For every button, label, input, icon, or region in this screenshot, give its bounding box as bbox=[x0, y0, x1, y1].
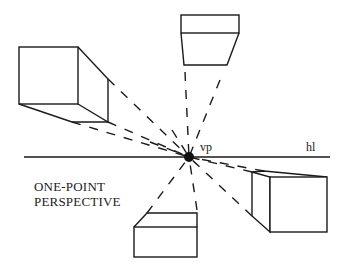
vanishing-point bbox=[184, 152, 194, 162]
cube-top-center bbox=[181, 15, 239, 65]
projection-lines-bottom-center bbox=[147, 157, 197, 213]
horizon-line-label: hl bbox=[306, 140, 315, 155]
projection-lines-bottom-right bbox=[189, 157, 264, 216]
diagram-title: ONE-POINT PERSPECTIVE bbox=[34, 179, 121, 209]
title-line-1: ONE-POINT bbox=[34, 179, 121, 194]
cube-bottom-center bbox=[134, 213, 197, 257]
diagram-canvas bbox=[0, 0, 350, 273]
one-point-perspective-diagram: ONE-POINT PERSPECTIVE vp hl bbox=[0, 0, 350, 273]
projection-lines-top-left bbox=[72, 79, 189, 157]
vanishing-point-label: vp bbox=[200, 140, 212, 155]
cube-bottom-right bbox=[252, 171, 327, 232]
title-line-2: PERSPECTIVE bbox=[34, 194, 121, 209]
projection-lines-extra bbox=[150, 130, 189, 157]
cube-top-left bbox=[19, 47, 108, 122]
